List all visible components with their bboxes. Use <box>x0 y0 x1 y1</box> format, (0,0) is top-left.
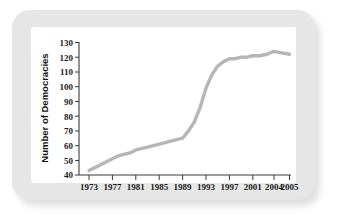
y-axis-tick-labels: 40 50 60 70 80 90 100 110 120 130 <box>60 38 74 181</box>
y-tick-label: 90 <box>64 97 74 107</box>
y-tick-label: 80 <box>64 112 74 122</box>
x-tick-label: 1973 <box>80 182 99 192</box>
y-tick-label: 40 <box>64 170 74 180</box>
line-chart: Number of Democracies 40 50 <box>0 0 337 217</box>
x-tick-label: 1997 <box>220 182 239 192</box>
y-tick-label: 100 <box>60 82 74 92</box>
y-tick-label: 120 <box>60 53 74 63</box>
x-axis-ticks <box>89 175 290 180</box>
x-tick-label: 1977 <box>103 182 122 192</box>
x-tick-label: 1989 <box>174 182 193 192</box>
y-tick-label: 70 <box>64 126 74 136</box>
x-tick-label: 2005 <box>281 182 300 192</box>
data-series-line <box>89 51 290 170</box>
y-axis-title: Number of Democracies <box>39 53 50 162</box>
y-tick-label: 130 <box>60 38 74 48</box>
y-tick-label: 110 <box>60 67 74 77</box>
y-tick-label: 60 <box>64 141 74 151</box>
y-tick-label: 50 <box>64 156 74 166</box>
x-tick-label: 1981 <box>127 182 146 192</box>
chart-svg: Number of Democracies 40 50 <box>0 0 337 217</box>
x-tick-label: 2001 <box>244 182 263 192</box>
x-tick-label: 1985 <box>150 182 169 192</box>
y-axis-ticks <box>75 43 79 176</box>
x-axis-tick-labels: 1973 1977 1981 1985 1989 1993 1997 2001 … <box>80 182 299 192</box>
chart-page: Number of Democracies 40 50 <box>0 0 337 217</box>
x-tick-label: 1993 <box>197 182 216 192</box>
